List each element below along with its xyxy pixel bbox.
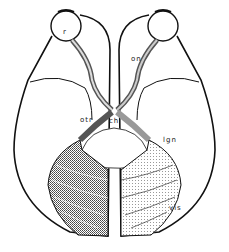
label-visual-cortex: vis: [169, 205, 182, 212]
label-optic-nerve: on: [131, 56, 142, 63]
optic-nerves: [72, 40, 157, 110]
label-chiasm: ch: [109, 118, 119, 125]
visual-pathway-diagram: [0, 0, 229, 252]
left-eye: [51, 10, 81, 41]
label-optic-tract: otr: [80, 117, 93, 124]
label-retina: r: [63, 29, 67, 36]
brain-outline: [14, 15, 215, 236]
right-eye: [148, 10, 178, 41]
label-lgn: lgn: [163, 137, 177, 144]
